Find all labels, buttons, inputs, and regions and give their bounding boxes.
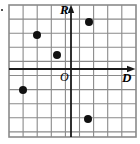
point-2 [53,51,61,59]
grid-border [9,5,136,137]
grid-lines-group [9,5,136,137]
horizontal-axis-label: D [122,71,131,84]
point-5 [84,115,92,123]
coordinate-grid-figure: R D O [0,0,140,144]
grid-canvas [0,0,140,144]
vertical-axis-label: R [60,3,69,16]
point-1 [33,31,41,39]
axes-group [9,5,136,138]
origin-label: O [60,71,69,83]
point-4 [19,86,27,94]
point-3 [85,18,93,26]
grid-outer-border [9,5,136,137]
